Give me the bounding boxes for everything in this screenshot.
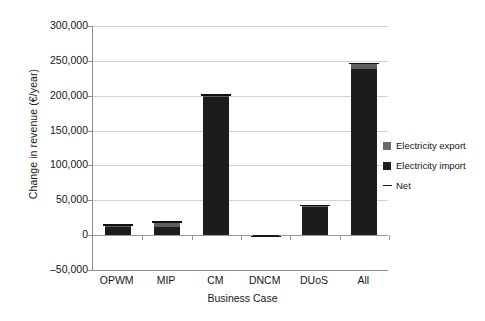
legend-item[interactable]: Electricity import — [383, 160, 483, 171]
bar-group[interactable] — [142, 26, 191, 270]
net-marker — [251, 236, 281, 237]
net-marker — [349, 63, 379, 64]
bar-segment-export[interactable] — [154, 222, 180, 228]
bar-segment-import[interactable] — [154, 227, 180, 235]
legend-swatch-icon — [383, 162, 391, 170]
y-axis-tick-label: 150,000 — [28, 124, 88, 136]
x-axis-tick-label: OPWM — [100, 274, 134, 286]
legend-dash-icon — [383, 185, 392, 186]
y-axis-tick-label: 0 — [28, 228, 88, 240]
legend-item[interactable]: Electricity export — [383, 140, 483, 151]
x-axis-title: Business Case — [0, 292, 485, 304]
plot-area — [92, 26, 388, 270]
legend-label: Electricity import — [396, 160, 466, 171]
y-axis-tick-label: –50,000 — [28, 263, 88, 275]
bar-group[interactable] — [192, 26, 241, 270]
y-axis-tick — [88, 270, 93, 271]
y-axis-tick-label: 200,000 — [28, 89, 88, 101]
gridline — [93, 270, 388, 271]
net-marker — [201, 94, 231, 95]
y-axis-tick-label: 100,000 — [28, 158, 88, 170]
legend-item[interactable]: Net — [383, 180, 483, 191]
bar-group[interactable] — [340, 26, 389, 270]
bar-group[interactable] — [241, 26, 290, 270]
net-marker — [152, 221, 182, 222]
x-axis-tick-label: MIP — [157, 274, 176, 286]
bar-segment-import[interactable] — [302, 207, 328, 235]
x-axis-tick-label: All — [357, 274, 369, 286]
x-axis-tick-label: DUoS — [300, 274, 328, 286]
net-marker — [103, 224, 133, 225]
net-marker — [300, 205, 330, 206]
y-axis-tick-labels: 300,000250,000200,000150,000100,00050,00… — [26, 0, 88, 321]
chart-legend: Electricity exportElectricity importNet — [383, 140, 483, 200]
x-axis-tick — [389, 235, 390, 240]
bar-group[interactable] — [290, 26, 339, 270]
x-axis-tick-label: CM — [207, 274, 223, 286]
legend-label: Net — [396, 180, 411, 191]
legend-label: Electricity export — [396, 140, 466, 151]
y-axis-tick-label: 250,000 — [28, 54, 88, 66]
bar-group[interactable] — [93, 26, 142, 270]
y-axis-tick-label: 50,000 — [28, 193, 88, 205]
chart-figure: Change in revenue (€/year) 300,000250,00… — [0, 0, 485, 321]
bar-segment-import[interactable] — [351, 69, 377, 235]
y-axis-tick-label: 300,000 — [28, 19, 88, 31]
x-axis-tick-label: DNCM — [249, 274, 281, 286]
bar-segment-export[interactable] — [351, 64, 377, 70]
bar-segment-import[interactable] — [105, 226, 131, 235]
legend-swatch-icon — [383, 142, 391, 150]
bar-segment-import[interactable] — [203, 96, 229, 235]
